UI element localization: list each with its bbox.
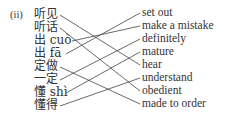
match-line <box>72 26 140 41</box>
match-line <box>60 78 140 106</box>
match-line <box>60 15 140 65</box>
matching-lines <box>0 0 232 122</box>
match-line <box>66 13 140 54</box>
match-line <box>60 67 140 104</box>
